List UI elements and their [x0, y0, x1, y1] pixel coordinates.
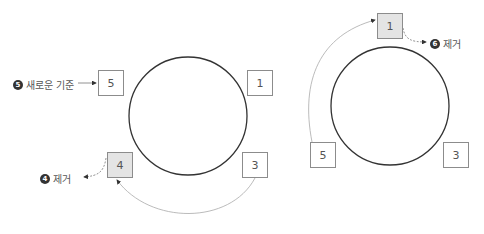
left-node-4: 4: [107, 152, 133, 178]
remove-4-text: 제거: [53, 171, 71, 186]
left-node-5: 5: [98, 70, 124, 96]
move-3-to-4-arc: [117, 178, 255, 214]
remove-4-label: 4 제거: [40, 171, 71, 186]
diagram-lines: [0, 0, 484, 234]
step-4-badge: 4: [40, 174, 50, 184]
new-base-text: 새로운 기준: [26, 77, 74, 92]
right-node-3: 3: [443, 142, 469, 168]
right-node-5: 5: [310, 142, 336, 168]
remove-1-label: 6 제거: [430, 36, 461, 51]
left-node-1: 1: [247, 70, 273, 96]
remove-1-text: 제거: [443, 36, 461, 51]
right-ring-circle: [331, 47, 449, 165]
left-node-3: 3: [242, 152, 268, 178]
step-6-badge: 6: [430, 39, 440, 49]
move-5-to-1-arc: [309, 20, 375, 142]
remove-4-arrow: [84, 158, 106, 177]
step-5-badge: 5: [13, 80, 23, 90]
right-node-1: 1: [377, 13, 403, 39]
left-ring-circle: [129, 57, 247, 175]
new-base-label: 5 새로운 기준: [13, 77, 74, 92]
remove-1-arrow: [403, 28, 426, 42]
